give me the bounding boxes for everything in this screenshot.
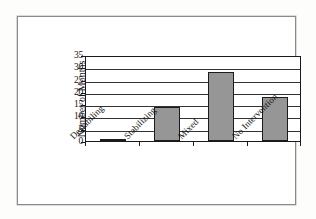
bar-stabilizing — [154, 107, 179, 141]
gridline-20 — [86, 94, 300, 95]
gridline-30 — [86, 69, 300, 70]
x-tick-mark-0 — [85, 142, 86, 146]
y-axis-tick-labels: 05101520253035 — [63, 56, 83, 142]
chart-page: Number of Months 05101520253035 Destabil… — [0, 0, 316, 219]
bar-no-intervention — [262, 97, 287, 141]
x-tick-mark-3 — [247, 142, 248, 146]
bar-mixed — [208, 72, 233, 141]
x-axis-tick-marks — [85, 142, 301, 147]
gridline-25 — [86, 82, 300, 83]
x-tick-mark-2 — [193, 142, 194, 146]
plot-area — [85, 56, 301, 142]
bar-destabiling — [100, 139, 125, 141]
x-tick-mark-1 — [139, 142, 140, 146]
figure-frame: Number of Months 05101520253035 Destabil… — [17, 16, 296, 205]
x-tick-mark-4 — [300, 142, 301, 146]
